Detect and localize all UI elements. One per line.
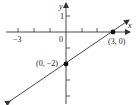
point-3-0 — [111, 30, 116, 35]
y-axis-ticks — [66, 16, 70, 96]
x-axis-ticks — [18, 28, 97, 32]
coordinate-plane: y x 1 −3 0 (3, 0) (0, −2) — [0, 0, 140, 105]
y-axis-label: y — [58, 2, 63, 11]
point-label-0-neg2: (0, −2) — [36, 59, 58, 68]
point-0-neg2 — [64, 62, 69, 67]
y-tick-label-1: 1 — [60, 12, 64, 21]
x-tick-label-neg3: −3 — [13, 35, 22, 44]
x-tick-label-0: 0 — [59, 35, 63, 44]
x-axis-label: x — [127, 21, 132, 30]
point-label-3-0: (3, 0) — [108, 37, 126, 46]
